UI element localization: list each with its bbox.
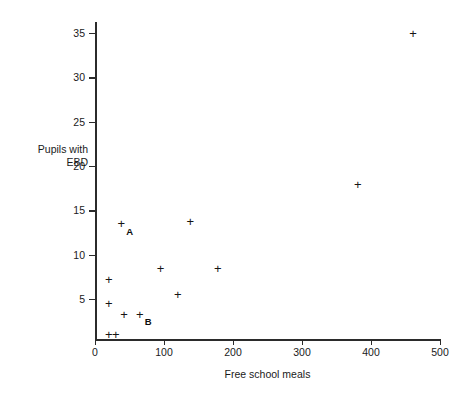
data-point	[408, 28, 419, 39]
y-tick-label-30: 30	[60, 72, 85, 83]
data-point	[212, 263, 223, 274]
x-axis-line	[95, 339, 440, 341]
data-point	[134, 309, 145, 320]
data-point	[185, 216, 196, 227]
point-label-A: A	[126, 227, 133, 237]
y-tick-10	[89, 255, 95, 256]
y-axis-title-line2: EBD	[66, 156, 88, 168]
x-tick-label-100: 100	[144, 347, 184, 358]
x-tick-label-0: 0	[75, 347, 115, 358]
x-axis-title: Free school meals	[95, 368, 440, 380]
y-tick-label-25: 25	[60, 117, 85, 128]
y-tick-30	[89, 77, 95, 78]
y-axis-line	[95, 22, 97, 340]
y-axis-title: Pupils with EBD	[8, 143, 88, 169]
y-tick-35	[89, 33, 95, 34]
y-axis-title-line1: Pupils with	[38, 143, 88, 155]
data-point	[103, 274, 114, 285]
x-tick-label-400: 400	[351, 347, 391, 358]
data-point	[118, 309, 129, 320]
y-tick-label-35: 35	[60, 28, 85, 39]
x-tick-label-300: 300	[282, 347, 322, 358]
scatter-chart: 5101520253035 0100200300400500 Pupils wi…	[0, 0, 465, 395]
data-point	[103, 298, 114, 309]
y-tick-20	[89, 166, 95, 167]
x-tick-400	[371, 339, 372, 345]
x-tick-0	[95, 339, 96, 345]
data-point	[172, 289, 183, 300]
x-tick-500	[440, 339, 441, 345]
data-point	[352, 179, 363, 190]
point-label-B: B	[145, 317, 152, 327]
y-tick-25	[89, 122, 95, 123]
y-tick-label-10: 10	[60, 250, 85, 261]
y-tick-5	[89, 299, 95, 300]
x-tick-label-500: 500	[420, 347, 460, 358]
x-tick-100	[164, 339, 165, 345]
data-point	[155, 263, 166, 274]
x-tick-300	[302, 339, 303, 345]
data-point	[110, 329, 121, 340]
y-tick-15	[89, 210, 95, 211]
x-tick-200	[233, 339, 234, 345]
x-tick-label-200: 200	[213, 347, 253, 358]
data-point	[116, 218, 127, 229]
y-tick-label-15: 15	[60, 205, 85, 216]
y-tick-label-5: 5	[60, 294, 85, 305]
